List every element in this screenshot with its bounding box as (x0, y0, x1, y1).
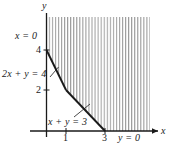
constraint-label-y-eq-0: y = 0 (118, 133, 140, 143)
constraint-label-2x-plus-y-eq-4: 2x + y = 4 (2, 69, 46, 79)
y-tick-label-4: 4 (36, 45, 41, 55)
x-axis-label: x (161, 126, 165, 136)
x-axis-arrow (152, 128, 158, 133)
math-figure: y x 4 2 1 3 x = 0 2x + y = 4 x + y = 3 y… (0, 0, 172, 152)
x-tick-label-1: 1 (63, 133, 68, 143)
y-axis-label: y (42, 1, 46, 11)
feasible-region-shading (47, 17, 151, 131)
constraint-label-x-eq-0: x = 0 (15, 31, 37, 41)
constraint-label-x-plus-y-eq-3: x + y = 3 (48, 117, 87, 127)
y-tick-label-2: 2 (36, 85, 41, 95)
x-tick-label-3: 3 (102, 133, 107, 143)
